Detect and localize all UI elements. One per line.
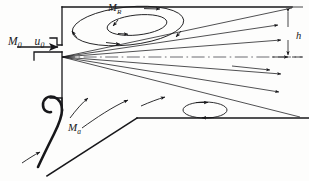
nozzle-upper-lip xyxy=(50,38,62,45)
lower-vortex-streamline xyxy=(183,102,227,118)
entrainment-arrow-ambient xyxy=(22,152,40,163)
duct-walls xyxy=(34,7,309,176)
nozzle-lower-lip xyxy=(34,52,62,60)
duct-height-label: h xyxy=(296,31,301,42)
entrained-air-label: Ma xyxy=(68,122,81,136)
entrainment-arrow-1 xyxy=(70,98,88,118)
jet-ray-mid-arrow xyxy=(232,66,270,70)
entrainment-arrow-2 xyxy=(82,100,128,128)
jet-entrainment-diagram xyxy=(0,0,309,181)
inlet-momentum-label: M0 xyxy=(8,36,22,50)
entrainment-lip xyxy=(38,110,62,167)
recirculation-label: MR xyxy=(108,3,121,16)
inlet-label: M0 u0 xyxy=(8,36,44,50)
jet-ray-2 xyxy=(62,25,278,57)
jet-ray-upper-edge xyxy=(62,8,292,57)
entrainment-lip-hook xyxy=(43,96,62,112)
inlet-velocity-label: u0 xyxy=(34,36,44,50)
entrainment-arrow-3 xyxy=(141,97,165,106)
lower-recirculation-vortex xyxy=(183,102,227,118)
vortex-inner-arrow-bottom xyxy=(118,34,128,35)
jet-ray-5 xyxy=(62,57,279,92)
jet-ray-fan xyxy=(62,8,300,117)
ramp-line xyxy=(47,118,137,176)
vortex-outer-streamline xyxy=(70,1,185,50)
jet-ray-3 xyxy=(62,40,281,57)
diagram-canvas: M0 u0 MR Ma h xyxy=(0,0,309,181)
upper-recirculation-vortex xyxy=(70,1,185,50)
vortex-arrow-bottom xyxy=(106,43,120,45)
